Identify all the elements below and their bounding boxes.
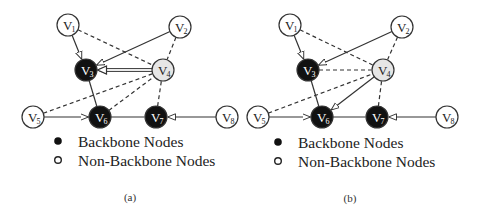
edge-V7-V4 — [378, 81, 381, 106]
node-v8: V8 — [436, 106, 458, 128]
edge-V1-V3 — [294, 35, 304, 59]
node-v4: V4 — [372, 59, 394, 81]
node-subscript: 2 — [406, 27, 410, 36]
node-subscript: 4 — [387, 70, 391, 79]
node-v2: V2 — [391, 16, 413, 38]
node-v3: V3 — [75, 59, 97, 81]
node-v3: V3 — [297, 59, 319, 81]
node-v6: V6 — [89, 106, 111, 128]
nodes: V1V2V3V4V5V6V7V8 — [247, 14, 458, 128]
node-subscript: 2 — [184, 27, 188, 36]
node-subscript: 8 — [231, 117, 235, 126]
edge-V2-V4 — [167, 37, 176, 59]
backbone-dot-icon — [274, 138, 282, 146]
panel-caption: (b) — [344, 192, 357, 205]
edge-V2-V4 — [388, 37, 398, 59]
edges — [43, 30, 216, 117]
node-v5: V5 — [247, 106, 269, 128]
legend: Backbone NodesNon-Backbone Nodes — [54, 133, 215, 169]
node-subscript: 8 — [451, 117, 455, 126]
arrowhead-icon — [98, 66, 107, 74]
edge-V3-V6 — [311, 81, 319, 106]
node-subscript: 3 — [90, 70, 94, 79]
node-subscript: 5 — [37, 117, 41, 126]
edge-V7-V4 — [158, 81, 162, 106]
panel-b: V1V2V3V4V5V6V7V8Backbone NodesNon-Backbo… — [247, 14, 458, 205]
legend-backbone-label: Backbone Nodes — [78, 133, 183, 150]
legend-non-backbone-label: Non-Backbone Nodes — [298, 153, 435, 170]
node-v4: V4 — [152, 59, 174, 81]
node-subscript: 3 — [312, 70, 316, 79]
panel-a: V1V2V3V4V5V6V7V8Backbone NodesNon-Backbo… — [22, 14, 238, 204]
legend: Backbone NodesNon-Backbone Nodes — [274, 134, 435, 170]
non-backbone-dot-icon — [55, 157, 62, 164]
node-subscript: 5 — [262, 117, 266, 126]
panel-caption: (a) — [124, 191, 137, 204]
node-subscript: 6 — [326, 117, 330, 126]
backbone-dot-icon — [54, 137, 62, 145]
node-v2: V2 — [169, 16, 191, 38]
node-v6: V6 — [311, 106, 333, 128]
node-subscript: 1 — [72, 25, 76, 34]
node-v7: V7 — [366, 106, 388, 128]
edges — [268, 30, 436, 117]
node-subscript: 1 — [294, 25, 298, 34]
node-subscript: 4 — [167, 70, 171, 79]
node-subscript: 7 — [381, 117, 385, 126]
non-backbone-dot-icon — [275, 158, 282, 165]
legend-backbone-label: Backbone Nodes — [298, 134, 403, 151]
edge-V3-V6 — [89, 81, 97, 106]
legend-non-backbone-label: Non-Backbone Nodes — [78, 152, 215, 169]
node-v8: V8 — [216, 106, 238, 128]
edge-V4-V6 — [331, 77, 374, 110]
edge-V1-V3 — [72, 35, 82, 59]
node-subscript: 6 — [104, 117, 108, 126]
node-subscript: 7 — [160, 117, 164, 126]
node-v7: V7 — [145, 106, 167, 128]
network-diagram: V1V2V3V4V5V6V7V8Backbone NodesNon-Backbo… — [0, 0, 481, 223]
node-v5: V5 — [22, 106, 44, 128]
node-v1: V1 — [57, 14, 79, 36]
node-v1: V1 — [279, 14, 301, 36]
